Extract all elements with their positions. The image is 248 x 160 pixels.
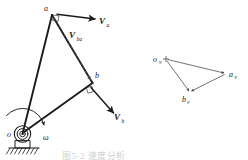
point-a-marker <box>51 14 53 16</box>
svg-text:b: b <box>182 95 186 104</box>
svg-text:a: a <box>107 22 110 28</box>
polygon-edge-ov-av <box>168 60 225 74</box>
label-omega: ω <box>43 133 49 142</box>
vector-v-b <box>91 88 114 114</box>
label-pole-ov: o v <box>153 55 162 65</box>
mechanism-velocity-figure: o a b ω V a V ba V b <box>0 0 248 160</box>
ground-hatching <box>7 148 40 154</box>
svg-text:b: b <box>122 118 125 124</box>
label-vector-v-b: V b <box>114 112 125 124</box>
polygon-edge-av-bv <box>192 75 225 92</box>
svg-text:V: V <box>69 30 76 40</box>
pole-ov-marker <box>163 56 169 62</box>
label-vector-v-ba: V ba <box>69 30 82 42</box>
svg-text:v: v <box>187 99 190 105</box>
vector-v-a <box>57 14 95 19</box>
polygon-edge-ov-bv <box>167 61 189 91</box>
svg-text:a: a <box>229 70 233 79</box>
svg-text:V: V <box>114 112 121 122</box>
velocity-polygon-group: o v a v b v <box>153 55 238 105</box>
svg-text:ba: ba <box>77 36 83 42</box>
label-point-o: o <box>7 130 11 139</box>
point-b-marker <box>92 82 94 84</box>
label-vector-v-a: V a <box>99 16 110 28</box>
label-point-a: a <box>44 4 48 13</box>
svg-text:V: V <box>99 16 106 26</box>
mechanism-group: o a b ω V a V ba V b <box>7 4 125 154</box>
svg-text:o: o <box>153 55 157 64</box>
label-point-b: b <box>95 71 99 80</box>
svg-text:v: v <box>159 59 162 65</box>
figure-root: o a b ω V a V ba V b <box>0 0 248 160</box>
label-vertex-bv: b v <box>182 95 190 105</box>
label-vertex-av: a v <box>229 70 238 80</box>
svg-text:v: v <box>235 74 238 80</box>
